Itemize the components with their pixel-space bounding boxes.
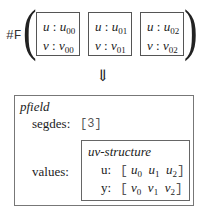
y-label: y: (101, 180, 111, 196)
right-paren: ) (184, 0, 198, 63)
u-label: u: (101, 162, 111, 178)
left-paren: ( (23, 0, 37, 63)
values-label: values: (32, 164, 69, 180)
record-cell-1: u : u01 v : v01 (88, 12, 132, 56)
double-down-arrow-icon: ⇓ (96, 66, 109, 85)
y-array: [ v0 v1 v2] (120, 180, 183, 197)
uv-structure-title: uv-structure (88, 144, 151, 160)
u-array: [ u0 u1 u2] (120, 162, 185, 179)
pfield-title: pfield (20, 99, 50, 115)
segdes-label: segdes: (32, 116, 70, 132)
field-name: v (43, 38, 49, 53)
segdes-value: [3] (80, 117, 102, 131)
record-prefix: #F (6, 28, 22, 43)
record-cell-0: u : u00 v : v00 (36, 12, 80, 56)
record-cell-2: u : u02 v : v02 (140, 12, 184, 56)
field-name: u (43, 19, 50, 34)
